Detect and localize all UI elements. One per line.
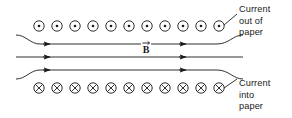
current-out-of-page-center-dot [38,25,41,28]
label-into-line-3: paper [239,101,270,113]
label-out-line-2: out of [239,16,270,28]
current-out-of-page-center-dot [128,25,131,28]
b-field-label-group: B [141,41,151,56]
current-out-of-page-center-dot [182,25,185,28]
current-out-of-page-center-dot [92,25,95,28]
current-out-of-page-center-dot [56,25,59,28]
current-into-page-row [34,83,224,93]
label-into-line-1: Current [239,78,270,90]
current-out-of-page-center-dot [218,25,221,28]
b-field-letter: B [143,44,150,55]
current-out-of-page-center-dot [110,25,113,28]
field-diagram: B Current out of paper Current into pape… [0,0,292,118]
current-out-of-paper-label: Current out of paper [239,4,270,39]
current-out-of-page-center-dot [200,25,203,28]
field-line-bottom [16,70,243,79]
current-out-of-page-center-dot [74,25,77,28]
label-out-line-1: Current [239,4,270,16]
current-out-of-page-row [34,21,224,31]
label-into-line-2: into [239,90,270,102]
label-out-line-3: paper [239,27,270,39]
magnetic-field-lines [16,35,243,79]
field-line-top [16,35,243,44]
leader-line-out-of-paper [224,14,237,25]
current-out-of-page-center-dot [164,25,167,28]
leader-line-into-paper [224,79,237,88]
current-out-of-page-center-dot [146,25,149,28]
current-into-paper-label: Current into paper [239,78,270,113]
